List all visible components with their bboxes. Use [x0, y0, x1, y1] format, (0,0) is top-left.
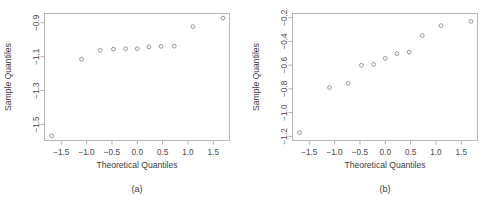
x-tick-label: 0.5 [157, 148, 169, 157]
panel-b-plot: −1.5−1.0−0.50.00.51.01.5 −0.2−0.4−0.6−0.… [248, 0, 496, 201]
data-point [147, 45, 151, 49]
y-tick-label: −0.8 [280, 80, 289, 97]
panel-a: −1.5−1.0−0.50.00.51.01.5 −0.9−1.1−1.3−1.… [0, 0, 248, 201]
data-points-b [298, 20, 473, 135]
x-tick-label: −1.5 [53, 148, 70, 157]
data-point [439, 24, 443, 28]
data-point [360, 63, 364, 67]
x-tick-label: −1.0 [78, 148, 95, 157]
data-point [469, 20, 473, 24]
y-tick-label: −0.9 [32, 14, 41, 31]
y-tick-label: −1.2 [280, 128, 289, 145]
data-point [395, 52, 399, 56]
panel-b: −1.5−1.0−0.50.00.51.01.5 −0.2−0.4−0.6−0.… [248, 0, 496, 201]
data-point [80, 57, 84, 61]
y-axis-ticks-a [41, 23, 45, 125]
x-tick-labels-b: −1.5−1.0−0.50.00.51.01.5 [301, 148, 467, 157]
y-tick-label: −1.5 [32, 116, 41, 133]
x-axis-ticks-b [309, 141, 461, 145]
x-axis-title-a: Theoretical Quantiles [96, 160, 177, 170]
x-tick-label: 1.0 [182, 148, 194, 157]
x-tick-label: −0.5 [104, 148, 121, 157]
x-tick-labels-a: −1.5−1.0−0.50.00.51.01.5 [53, 148, 219, 157]
x-tick-label: 0.5 [405, 148, 417, 157]
data-point [112, 47, 116, 51]
x-axis-ticks-a [61, 141, 213, 145]
data-point [98, 49, 102, 53]
y-axis-title-a: Sample Quantiles [3, 43, 13, 111]
data-point [50, 134, 54, 138]
x-tick-label: 1.5 [208, 148, 220, 157]
data-point [328, 86, 332, 90]
x-tick-label: 1.0 [430, 148, 442, 157]
plot-frame-b [293, 14, 478, 141]
panel-caption-b: (b) [380, 184, 391, 194]
data-point [191, 25, 195, 29]
y-tick-label: −1.0 [280, 104, 289, 121]
y-tick-label: −0.4 [280, 33, 289, 50]
y-axis-title-b: Sample Quantiles [251, 43, 261, 111]
data-point [172, 44, 176, 48]
plot-frame-a [45, 14, 230, 141]
x-tick-label: −0.5 [352, 148, 369, 157]
data-point [346, 81, 350, 85]
data-point [407, 50, 411, 54]
panel-a-plot: −1.5−1.0−0.50.00.51.01.5 −0.9−1.1−1.3−1.… [0, 0, 248, 201]
data-point [124, 47, 128, 51]
data-point [420, 34, 424, 38]
data-point [221, 16, 225, 20]
x-tick-label: 0.0 [380, 148, 392, 157]
data-point [298, 131, 302, 135]
data-point [372, 63, 376, 67]
x-tick-label: −1.0 [326, 148, 343, 157]
data-points-a [50, 16, 225, 137]
x-axis-title-b: Theoretical Quantiles [344, 160, 425, 170]
data-point [159, 44, 163, 48]
y-tick-labels-a: −0.9−1.1−1.3−1.5 [32, 14, 41, 132]
x-tick-label: 1.5 [456, 148, 468, 157]
panel-caption-a: (a) [132, 184, 143, 194]
data-point [383, 56, 387, 60]
x-tick-label: −1.5 [301, 148, 318, 157]
y-axis-ticks-b [289, 18, 293, 137]
x-tick-label: 0.0 [132, 148, 144, 157]
y-tick-label: −0.2 [280, 9, 289, 26]
y-tick-labels-b: −0.2−0.4−0.6−0.8−1.0−1.2 [280, 9, 289, 144]
data-point [135, 47, 139, 51]
qq-plot-figure: −1.5−1.0−0.50.00.51.01.5 −0.9−1.1−1.3−1.… [0, 0, 496, 201]
y-tick-label: −0.6 [280, 57, 289, 74]
y-tick-label: −1.3 [32, 82, 41, 99]
y-tick-label: −1.1 [32, 48, 41, 65]
